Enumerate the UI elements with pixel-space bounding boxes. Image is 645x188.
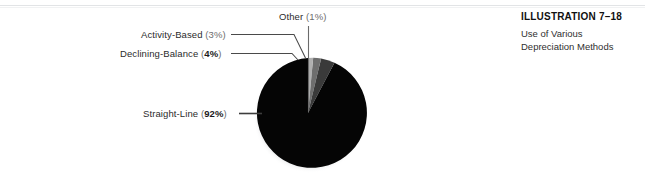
leader-line-activity-based xyxy=(231,35,306,59)
pie-label-activity-based: Activity-Based (3%) xyxy=(141,30,226,40)
pie-label-other-percent: (1%) xyxy=(303,11,326,22)
pie-label-straight-line: Straight-Line (92%) xyxy=(143,109,227,119)
illustration-subtitle-line1: Use of Various xyxy=(521,28,583,39)
illustration-caption: ILLUSTRATION 7–18 Use of Various Depreci… xyxy=(521,11,641,54)
pie-chart: Other (1%) Activity-Based (3%) Declining… xyxy=(0,0,500,188)
illustration-subtitle-line2: Depreciation Methods xyxy=(521,41,613,52)
pie-label-declining-balance-text: Declining-Balance xyxy=(120,48,198,59)
pie-label-straight-line-text: Straight-Line xyxy=(143,108,198,119)
pie-label-other-text: Other xyxy=(279,11,303,22)
illustration-number: ILLUSTRATION 7–18 xyxy=(521,11,641,22)
illustration-subtitle: Use of Various Depreciation Methods xyxy=(521,27,641,54)
pie-label-straight-line-percent: (92%) xyxy=(198,108,227,119)
pie-label-activity-based-percent: (3%) xyxy=(203,29,226,40)
illustration-page: Other (1%) Activity-Based (3%) Declining… xyxy=(0,0,645,188)
pie-label-declining-balance-percent: (4%) xyxy=(198,48,221,59)
pie-label-activity-based-text: Activity-Based xyxy=(141,29,203,40)
pie-chart-svg xyxy=(0,0,500,188)
pie-label-other: Other (1%) xyxy=(279,12,326,22)
pie-label-declining-balance: Declining-Balance (4%) xyxy=(120,49,222,59)
leader-line-declining-balance xyxy=(231,54,298,61)
